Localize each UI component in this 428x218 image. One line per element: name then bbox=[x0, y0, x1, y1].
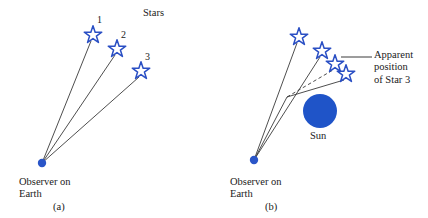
sun-label: Sun bbox=[310, 130, 326, 142]
star-number-2: 2 bbox=[121, 29, 126, 41]
panel-b-apparent-sightline bbox=[287, 70, 333, 97]
panel-b-star-1 bbox=[290, 28, 308, 45]
panel-a-observer-dot bbox=[38, 159, 46, 167]
panel-a-caption: (a) bbox=[53, 201, 65, 213]
panel-a-observer-label: Observer on Earth bbox=[19, 176, 71, 201]
sun-disc bbox=[303, 94, 337, 128]
panel-a-star-3 bbox=[132, 62, 150, 79]
panel-b-caption: (b) bbox=[265, 201, 277, 213]
panel-b-observer-dot bbox=[250, 156, 258, 164]
aberration-of-starlight-figure: Stars 1 2 3 Observer on Earth (a) Observ… bbox=[0, 0, 428, 218]
panel-b-observer-label: Observer on Earth bbox=[230, 176, 282, 201]
panel-b-star-2 bbox=[313, 42, 331, 59]
panel-a-star-1 bbox=[84, 26, 102, 43]
apparent-position-label: Apparent position of Star 3 bbox=[374, 49, 413, 86]
star-number-3: 3 bbox=[145, 51, 150, 63]
panel-a-rays bbox=[42, 41, 139, 163]
panel-a-star-2 bbox=[108, 40, 126, 57]
stars-title: Stars bbox=[143, 7, 164, 19]
star-number-1: 1 bbox=[97, 14, 102, 26]
